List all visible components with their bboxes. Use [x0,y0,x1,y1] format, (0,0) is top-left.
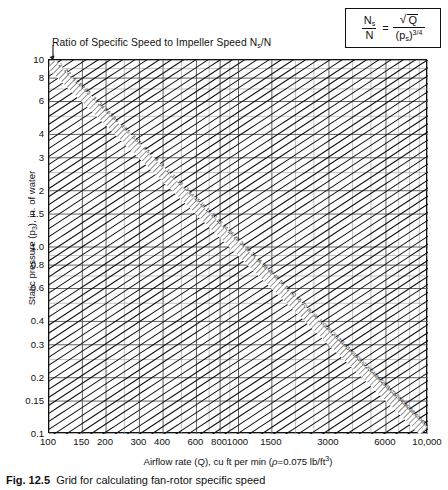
x-tick-label: 300 [130,436,146,447]
x-tick-label: 6000 [374,436,395,447]
x-tick-label: 3000 [317,436,338,447]
figure-root: Ns N = √Q (ps)3/4 Ratio of Specific Spee… [0,0,448,490]
x-tick-label: 150 [73,436,89,447]
x-tick-label: 200 [97,436,113,447]
x-tick-label: 600 [187,436,203,447]
x-tick-label: 100 [40,436,56,447]
x-tick-label: 1500 [260,436,281,447]
x-tick-label: 10,000 [412,436,441,447]
x-tick-label: 800 [211,436,227,447]
x-tick-label: 1000 [227,436,248,447]
x-tick-label: 400 [154,436,170,447]
x-axis-tick-labels: 100150200300400600800100015003000600010,… [0,0,448,490]
figure-caption: Fig. 12.5 Grid for calculating fan-rotor… [6,474,265,486]
